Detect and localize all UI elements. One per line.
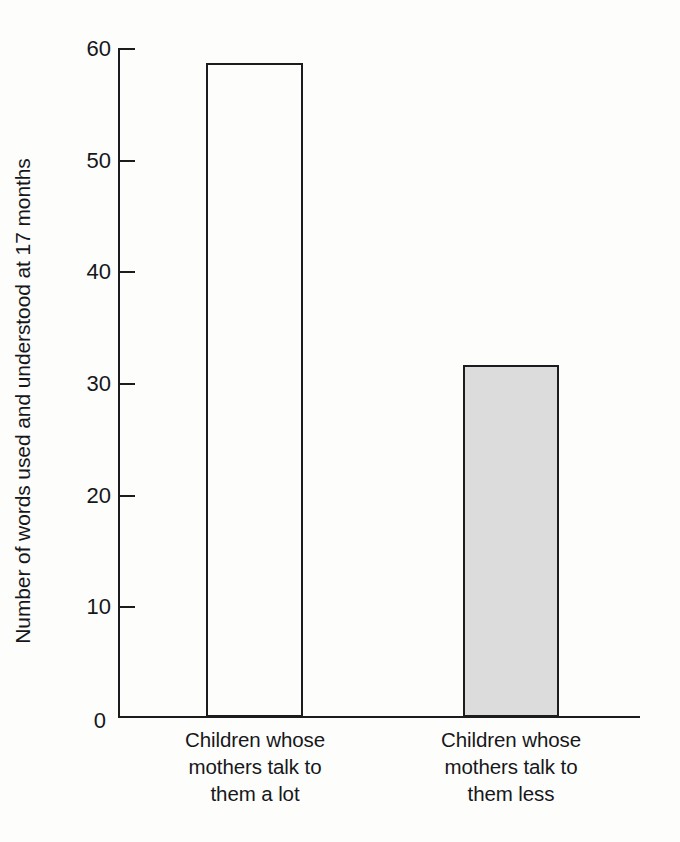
y-tick-30: 30 (120, 383, 135, 385)
category-label-line-2: mothers talk to (140, 753, 370, 780)
category-label-line-3: them less (396, 780, 626, 807)
y-tick-20: 20 (120, 495, 135, 497)
bar-talk-a-lot[interactable] (206, 63, 303, 717)
y-tick-label-30: 30 (87, 373, 111, 395)
y-tick-60: 60 (120, 48, 135, 50)
category-label-line-1: Children whose (140, 726, 370, 753)
y-tick-label-20: 20 (87, 485, 111, 507)
y-tick-label-10: 10 (87, 596, 111, 618)
category-label-talk-a-lot: Children whose mothers talk to them a lo… (140, 726, 370, 807)
category-label-line-2: mothers talk to (396, 753, 626, 780)
y-tick-50: 50 (120, 160, 135, 162)
y-tick-label-40: 40 (87, 261, 111, 283)
category-label-line-3: them a lot (140, 780, 370, 807)
bar-talk-less[interactable] (463, 365, 559, 717)
chart-page: Number of words used and understood at 1… (0, 0, 680, 842)
y-tick-label-60: 60 (87, 38, 111, 60)
y-tick-40: 40 (120, 271, 135, 273)
category-label-talk-less: Children whose mothers talk to them less (396, 726, 626, 807)
x-axis-line (118, 716, 640, 718)
y-tick-label-0: 0 (94, 710, 106, 732)
plot-area: 60 50 40 30 20 10 0 (118, 48, 640, 718)
y-tick-10: 10 (120, 606, 135, 608)
category-label-line-1: Children whose (396, 726, 626, 753)
y-tick-label-50: 50 (87, 150, 111, 172)
y-axis-title: Number of words used and understood at 1… (0, 121, 46, 681)
